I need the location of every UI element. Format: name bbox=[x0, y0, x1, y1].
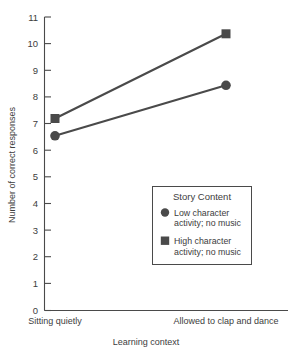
series-line-low-character bbox=[55, 85, 226, 136]
y-tick-label: 8 bbox=[33, 91, 38, 102]
y-tick-label: 11 bbox=[28, 12, 38, 23]
y-axis-title: Number of correct responses bbox=[7, 106, 17, 223]
legend-title: Story Content bbox=[173, 191, 231, 202]
legend-entry-low-line2: activity; no music bbox=[174, 218, 242, 228]
data-point-high-clapping bbox=[222, 29, 231, 38]
data-point-low-sitting bbox=[50, 131, 60, 141]
y-tick-label: 7 bbox=[33, 118, 38, 129]
line-chart: 11 10 9 8 7 6 5 4 3 2 1 0 Story Content … bbox=[0, 0, 292, 356]
legend-entry-high-line2: activity; no music bbox=[174, 247, 242, 257]
y-tick-label: 3 bbox=[33, 225, 38, 236]
legend: Story Content Low character activity; no… bbox=[153, 187, 252, 265]
y-tick-label: 2 bbox=[33, 251, 38, 262]
y-tick-label: 9 bbox=[33, 65, 38, 76]
data-point-high-sitting bbox=[51, 114, 60, 123]
series-line-high-character bbox=[55, 34, 226, 119]
data-point-low-clapping bbox=[221, 81, 231, 91]
legend-square-marker-icon bbox=[161, 237, 169, 245]
y-tick-label: 4 bbox=[33, 198, 38, 209]
legend-entry-high-line1: High character bbox=[174, 236, 231, 246]
legend-circle-marker-icon bbox=[161, 208, 169, 216]
x-axis-title: Learning context bbox=[113, 337, 180, 347]
y-tick-label: 0 bbox=[33, 305, 38, 316]
y-tick-marks bbox=[45, 17, 52, 311]
x-category-label-allowed-to-clap-and-dance: Allowed to clap and dance bbox=[173, 316, 278, 326]
y-tick-label: 10 bbox=[27, 38, 38, 49]
y-tick-label: 5 bbox=[33, 171, 38, 182]
legend-entry-low-line1: Low character bbox=[174, 208, 229, 218]
y-tick-label: 1 bbox=[33, 278, 38, 289]
y-tick-label: 6 bbox=[33, 145, 38, 156]
chart-canvas: 11 10 9 8 7 6 5 4 3 2 1 0 Story Content … bbox=[0, 0, 292, 356]
x-category-label-sitting-quietly: Sitting quietly bbox=[28, 316, 82, 326]
